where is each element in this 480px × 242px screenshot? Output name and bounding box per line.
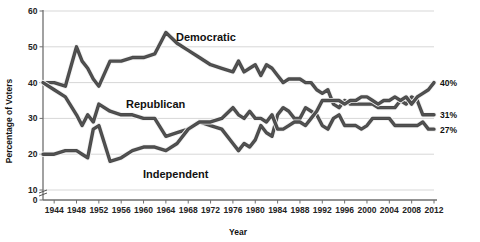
x-tick-label-1976: 1976 <box>223 205 242 215</box>
y-tick-label-60: 60 <box>28 6 38 16</box>
y-tick-label-40: 40 <box>28 78 38 88</box>
x-tick-label-1996: 1996 <box>335 205 354 215</box>
x-tick-label-1964: 1964 <box>156 205 175 215</box>
series-label-democratic: Democratic <box>176 31 236 43</box>
y-tick-label-0: 0 <box>33 195 38 205</box>
end-label-independent: 40% <box>440 78 457 88</box>
y-axis-title: Percentage of Voters <box>4 79 14 164</box>
end-label-republican: 27% <box>440 125 457 135</box>
voter-affiliation-line-chart: 0102030405060 19441948195219561960196419… <box>0 0 480 242</box>
end-value-labels: 31%27%40% <box>440 78 457 135</box>
y-tick-label-30: 30 <box>28 113 38 123</box>
x-tick-label-1968: 1968 <box>179 205 198 215</box>
y-tick-label-50: 50 <box>28 42 38 52</box>
series-label-republican: Republican <box>126 98 186 110</box>
x-tick-label-2008: 2008 <box>402 205 421 215</box>
series-lines <box>43 32 434 161</box>
x-tick-label-1984: 1984 <box>268 205 287 215</box>
end-label-democratic: 31% <box>440 110 457 120</box>
series-label-independent: Independent <box>143 168 209 180</box>
x-tick-label-2004: 2004 <box>380 205 399 215</box>
x-tick-label-2000: 2000 <box>358 205 377 215</box>
x-tick-label-1972: 1972 <box>201 205 220 215</box>
y-tick-label-20: 20 <box>28 149 38 159</box>
y-axis: 0102030405060 <box>28 6 47 205</box>
x-tick-label-1948: 1948 <box>67 205 86 215</box>
chart-container: 0102030405060 19441948195219561960196419… <box>0 0 480 242</box>
x-tick-label-1952: 1952 <box>89 205 108 215</box>
x-tick-label-2012: 2012 <box>425 205 444 215</box>
x-tick-label-1980: 1980 <box>246 205 265 215</box>
x-tick-label-1956: 1956 <box>112 205 131 215</box>
x-axis-title: Year <box>229 227 248 237</box>
x-axis: 1944194819521956196019641968197219761980… <box>43 200 444 215</box>
x-tick-label-1944: 1944 <box>45 205 64 215</box>
y-tick-label-10: 10 <box>28 185 38 195</box>
x-tick-label-1992: 1992 <box>313 205 332 215</box>
x-tick-label-1988: 1988 <box>290 205 309 215</box>
x-tick-label-1960: 1960 <box>134 205 153 215</box>
